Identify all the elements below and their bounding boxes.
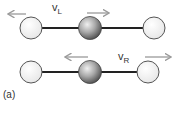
- center-atom: [79, 17, 102, 40]
- bottom-molecule: vR: [20, 50, 171, 84]
- velocity-label-L: vL: [52, 1, 63, 16]
- right-atom: [143, 17, 165, 39]
- left-atom: [20, 17, 42, 39]
- panel-label: (a): [3, 89, 15, 100]
- center-atom: [79, 61, 102, 84]
- velocity-label-R: vR: [118, 50, 130, 65]
- molecule-diagram: vL vR (a): [0, 0, 173, 124]
- right-atom: [137, 61, 159, 83]
- left-atom: [20, 61, 42, 83]
- top-molecule: vL: [8, 1, 165, 40]
